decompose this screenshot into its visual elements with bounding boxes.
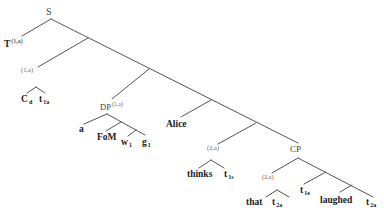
node-t2a-label: t bbox=[366, 197, 369, 207]
node-s-label: S bbox=[46, 6, 52, 17]
node-g1-sub: 1 bbox=[148, 142, 151, 148]
node-cd-sub: d bbox=[29, 99, 32, 105]
index-label: (1,a) bbox=[21, 66, 33, 73]
node-cd-label: C bbox=[21, 94, 28, 104]
node-t1s-sub: 1s bbox=[228, 174, 233, 180]
node-t1a-label: t bbox=[39, 94, 42, 104]
node-cp-label: CP bbox=[290, 144, 301, 154]
node-t-index: (1,a) bbox=[11, 38, 23, 44]
node-that-label: that bbox=[246, 197, 262, 207]
node-t1s-label: t bbox=[224, 169, 227, 179]
index-label: (2,s) bbox=[262, 173, 274, 180]
node-t2a-first: t2a bbox=[272, 198, 282, 208]
node-w1-sub: 1 bbox=[129, 142, 132, 148]
node-alice-label: Alice bbox=[166, 119, 187, 129]
node-t1e-label: t bbox=[300, 185, 303, 195]
node-t2a-label: t bbox=[272, 197, 275, 207]
node-t2a-second: t2a bbox=[366, 198, 376, 208]
node-t1e-sub: 1e bbox=[304, 190, 310, 196]
node-fom-label: FoM bbox=[97, 132, 117, 142]
node-g1-label: g bbox=[142, 137, 147, 147]
node-thinks: thinks bbox=[187, 170, 212, 180]
index-label: (2,a) bbox=[207, 144, 219, 151]
node-laughed: laughed bbox=[320, 196, 352, 206]
node-cd: Cd bbox=[21, 95, 32, 105]
node-dp-index: (1,a) bbox=[112, 101, 123, 107]
node-g1: g1 bbox=[142, 138, 151, 148]
node-t2a-sub: 2a bbox=[370, 202, 376, 208]
node-that: that bbox=[246, 198, 262, 208]
node-t2a-sub: 2a bbox=[276, 202, 282, 208]
node-t1e: t1e bbox=[300, 186, 310, 196]
node-t-label: T bbox=[4, 39, 10, 49]
node-w1: w1 bbox=[121, 138, 132, 148]
node-alice: Alice bbox=[166, 120, 187, 130]
node-dp: DP(1,a) bbox=[100, 101, 123, 112]
node-thinks-label: thinks bbox=[187, 169, 212, 179]
node-a: a bbox=[79, 125, 84, 135]
node-a-label: a bbox=[79, 124, 84, 134]
node-index-2s: (2,s) bbox=[262, 174, 274, 181]
node-t: T(1,a) bbox=[4, 38, 23, 50]
node-t1a: t1a bbox=[39, 95, 49, 105]
node-index-2a: (2,a) bbox=[207, 145, 219, 152]
node-s: S bbox=[46, 7, 52, 17]
node-t1s: t1s bbox=[224, 170, 234, 180]
node-dp-label: DP bbox=[100, 102, 111, 112]
node-cp: CP bbox=[290, 145, 301, 154]
node-fom: FoM bbox=[97, 133, 117, 143]
node-laughed-label: laughed bbox=[320, 195, 352, 205]
node-index-1a: (1,a) bbox=[21, 67, 33, 74]
node-t1a-sub: 1a bbox=[43, 99, 49, 105]
node-w1-label: w bbox=[121, 137, 128, 147]
